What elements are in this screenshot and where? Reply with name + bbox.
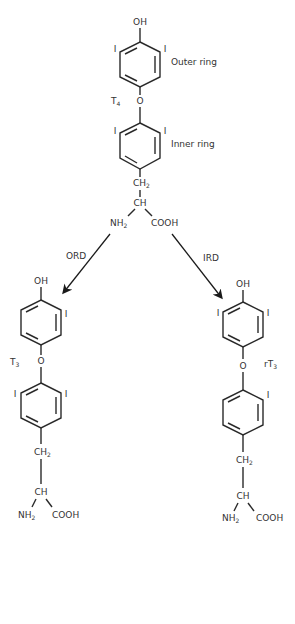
t3-molecule: OH I O T3 I I CH2 CH NH2 COOH (9, 276, 79, 521)
rt3-molecule: OH I I O rT3 I CH2 CH NH2 COOH (217, 279, 284, 524)
t4-molecule: OH I I Outer ring O T4 I I Inner ring CH… (110, 17, 217, 229)
rt3-cooh-label: COOH (256, 513, 283, 523)
rt3-nh2-label: NH2 (222, 513, 240, 524)
deiodination-diagram: OH I I Outer ring O T4 I I Inner ring CH… (0, 0, 295, 624)
t4-iodine-inner-left: I (114, 126, 117, 136)
t3-nh2-label: NH2 (18, 510, 36, 521)
t4-outer-ring (120, 42, 160, 87)
t3-ether-oxygen: O (37, 356, 44, 366)
t3-ch-label: CH (34, 487, 47, 497)
rt3-ch-label: CH (236, 491, 249, 501)
ord-arrow (64, 234, 110, 292)
t4-iodine-outer-left: I (114, 44, 117, 54)
t4-name-label: T4 (110, 96, 121, 107)
rt3-iodine-inner-right: I (267, 390, 270, 400)
t3-inner-ring (21, 383, 61, 428)
t4-inner-ring (120, 123, 160, 169)
ird-label: IRD (203, 253, 219, 263)
outer-ring-label: Outer ring (171, 57, 217, 67)
t4-ether-oxygen: O (136, 96, 143, 106)
rt3-iodine-outer-right: I (267, 308, 270, 318)
t3-hydroxyl-label: OH (34, 276, 48, 286)
t3-ch2-label: CH2 (34, 447, 51, 458)
t4-ch-label: CH (133, 198, 146, 208)
t3-outer-ring (21, 300, 61, 345)
rt3-name-label: rT3 (264, 359, 277, 370)
t3-iodine-inner-left: I (14, 389, 17, 399)
t3-name-label: T3 (9, 357, 20, 368)
t3-cooh-label: COOH (52, 510, 79, 520)
rt3-ether-oxygen: O (239, 361, 246, 371)
rt3-iodine-outer-left: I (217, 308, 220, 318)
t4-hydroxyl-label: OH (133, 17, 147, 27)
rt3-ch2-label: CH2 (236, 455, 253, 466)
t4-iodine-outer-right: I (164, 44, 167, 54)
ird-arrow (172, 234, 221, 297)
t4-cooh-label: COOH (151, 218, 178, 228)
rt3-outer-ring (223, 302, 263, 347)
t4-iodine-inner-right: I (164, 126, 167, 136)
t4-nh2-label: NH2 (110, 218, 128, 229)
rt3-inner-ring (223, 390, 263, 435)
inner-ring-label: Inner ring (171, 139, 215, 149)
t3-iodine-outer-right: I (65, 309, 68, 319)
rt3-hydroxyl-label: OH (236, 279, 250, 289)
ord-label: ORD (66, 251, 86, 261)
t3-iodine-inner-right: I (65, 389, 68, 399)
t4-ch2-label: CH2 (133, 178, 150, 189)
